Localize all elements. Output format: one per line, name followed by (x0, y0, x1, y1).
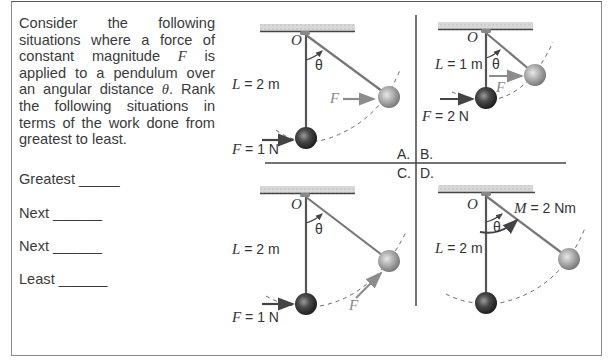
svg-text:θ: θ (315, 221, 323, 237)
svg-text:F: F (348, 297, 359, 313)
svg-text:θ: θ (315, 57, 323, 73)
svg-text:F = 1 N: F = 1 N (231, 141, 279, 157)
panel-a-diagram: O θ L = 2 m F F = 1 N (231, 24, 400, 157)
svg-text:O: O (467, 29, 478, 45)
panel-a-label: A. (397, 146, 410, 162)
svg-text:O: O (291, 196, 302, 212)
svg-text:O: O (291, 32, 302, 48)
svg-text:L = 2 m: L = 2 m (434, 240, 483, 256)
panel-b-diagram: O θ L = 1 m F F = 2 N (421, 22, 553, 124)
panel-c-diagram: O θ L = 2 m F F = 1 N (231, 186, 407, 325)
svg-text:O: O (467, 196, 478, 212)
pendulum-diagrams: A. B. C. D. O θ L = 2 m F F = 1 N O θ (0, 0, 613, 363)
ball-start (295, 127, 317, 149)
panel-c-label: C. (397, 165, 411, 181)
svg-text:θ: θ (492, 56, 500, 72)
length-label: L = 2 m (231, 76, 280, 92)
ceiling (260, 24, 355, 31)
svg-text:θ: θ (493, 219, 501, 235)
panel-b-label: B. (420, 146, 433, 162)
svg-text:M = 2 Nm: M = 2 Nm (513, 200, 576, 216)
svg-text:F = 2 N: F = 2 N (421, 108, 469, 124)
svg-text:L = 1 m: L = 1 m (434, 56, 483, 72)
svg-text:F: F (329, 90, 340, 106)
panel-d-label: D. (420, 165, 434, 181)
svg-text:F = 1 N: F = 1 N (231, 309, 279, 325)
svg-text:L = 2 m: L = 2 m (231, 241, 280, 257)
svg-text:F: F (495, 79, 506, 95)
panel-d-diagram: O θ L = 2 m M = 2 Nm (434, 185, 585, 314)
ball-end (378, 86, 400, 108)
